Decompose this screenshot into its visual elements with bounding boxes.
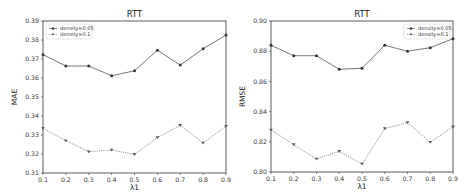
x-tick-label: 0.3 [84,176,94,183]
data-point [270,44,273,47]
y-tick-label: 0.39 [25,17,39,24]
legend-marker [410,27,412,29]
x-axis-label: λ1 [130,183,139,192]
data-point [156,49,159,52]
data-point [133,153,137,156]
data-point [201,142,205,145]
series-density-0-05 [270,37,455,71]
legend: density=0.05density=0.1 [404,24,452,39]
x-tick-label: 0.9 [221,176,231,183]
data-point [337,150,341,153]
legend: density=0.05density=0.1 [46,24,94,39]
x-tick-label: 0.6 [380,175,390,182]
y-axis-label: MAE [10,89,19,106]
x-tick-label: 0.2 [289,175,299,182]
legend-label: density=0.1 [418,31,448,38]
y-tick-label: 0.90 [253,17,267,24]
y-axis-label: RMSE [238,86,247,107]
y-tick-label: 0.80 [253,168,267,175]
data-point [110,74,113,77]
series-line [271,39,453,70]
chart-title: RTT [354,9,370,19]
x-tick-label: 0.3 [312,175,322,182]
y-tick-label: 0.36 [25,74,39,81]
data-point [269,129,273,132]
series-density-0-1 [269,121,455,165]
x-tick-label: 0.8 [198,176,208,183]
data-point [87,65,90,68]
chart-figure: RTT0.10.20.30.40.50.60.70.80.90.310.320.… [0,0,476,195]
x-tick-label: 0.9 [448,175,458,182]
data-point [428,141,432,144]
subplot-1: RTT0.10.20.30.40.50.60.70.80.90.310.320.… [10,9,231,192]
data-point [406,50,409,53]
data-point [202,47,205,50]
x-tick-label: 0.4 [107,176,117,183]
data-point [64,65,67,68]
y-tick-label: 0.86 [253,78,267,85]
chart-title: RTT [127,9,143,19]
data-point [179,64,182,67]
x-tick-label: 0.5 [130,176,140,183]
data-point [315,54,318,57]
data-point [429,46,432,49]
y-tick-label: 0.35 [25,93,39,100]
x-tick-label: 0.5 [357,175,367,182]
data-point [383,44,386,47]
data-point [87,150,91,153]
x-tick-label: 0.7 [403,175,413,182]
y-tick-label: 0.84 [253,108,267,115]
x-tick-label: 0.7 [175,176,185,183]
y-tick-label: 0.82 [253,138,267,145]
data-point [41,127,45,130]
y-tick-label: 0.32 [25,150,39,157]
y-tick-label: 0.88 [253,47,267,54]
data-point [292,54,295,57]
legend-label: density=0.1 [60,31,90,38]
series-line [271,123,453,164]
data-point [42,53,45,56]
data-point [361,67,364,70]
x-tick-label: 0.8 [425,175,435,182]
x-tick-label: 0.2 [61,176,71,183]
y-tick-label: 0.38 [25,36,39,43]
data-point [315,158,319,161]
legend-marker [52,27,54,29]
x-tick-label: 0.4 [334,175,344,182]
data-point [225,34,228,37]
series-density-0-05 [42,34,228,78]
data-point [338,68,341,71]
data-point [383,127,387,130]
data-point [360,163,364,166]
x-tick-label: 0.1 [38,176,48,183]
series-line [43,125,226,154]
plot-frame [271,21,453,172]
data-point [178,124,182,127]
y-tick-label: 0.37 [25,55,39,62]
y-tick-label: 0.33 [25,131,39,138]
x-tick-label: 0.1 [266,175,276,182]
plot-frame [43,21,226,173]
y-tick-label: 0.34 [25,112,39,119]
x-tick-label: 0.6 [152,176,162,183]
data-point [133,69,136,72]
subplot-2: RTT0.10.20.30.40.50.60.70.80.90.800.820.… [238,9,458,191]
series-density-0-1 [41,124,228,156]
data-point [452,37,455,40]
y-tick-label: 0.31 [25,169,39,176]
data-point [64,139,68,142]
x-axis-label: λ1 [357,182,366,191]
